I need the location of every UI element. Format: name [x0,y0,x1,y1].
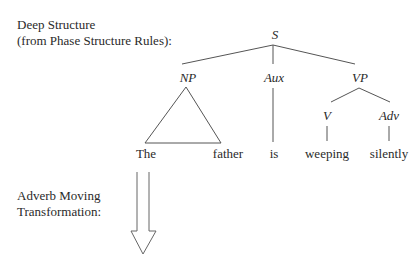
np-triangle [145,87,221,143]
word-the: The [136,147,156,161]
syntax-tree-lines [0,0,416,268]
edge-vp-v [331,88,359,102]
word-father: father [213,147,243,161]
word-weeping: weeping [305,147,349,161]
node-vp: VP [352,71,368,85]
node-s: S [272,28,279,42]
node-np: NP [180,71,197,85]
edge-s-vp [273,45,355,64]
word-silently: silently [370,147,408,161]
edge-s-np [182,45,273,64]
down-arrow-icon [131,172,156,254]
edge-vp-adv [359,88,390,102]
node-adv: Adv [379,109,399,123]
node-v: V [323,109,331,123]
node-aux: Aux [264,71,284,85]
word-is: is [270,147,279,161]
